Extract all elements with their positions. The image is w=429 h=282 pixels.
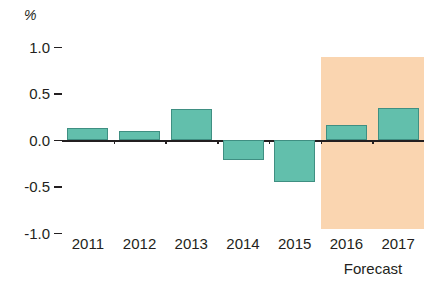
y-axis-tick-mark: [54, 140, 62, 142]
y-axis-tick-10: -1.0: [24, 225, 62, 241]
x-axis-tick-mark: [372, 140, 374, 144]
bar-2012: [119, 131, 160, 140]
bar-2017: [378, 108, 419, 140]
y-axis-tick-label: 0.5: [29, 86, 50, 101]
y-axis-tick-mark: [54, 186, 62, 188]
y-axis-tick-00: 0.0: [29, 132, 62, 148]
y-axis-tick-10: 1.0: [29, 39, 62, 55]
x-axis-tick-mark: [217, 140, 219, 144]
y-axis-tick-label: 0.0: [29, 133, 50, 148]
y-axis-tick-label: 1.0: [29, 40, 50, 55]
x-axis-label-2016: 2016: [321, 236, 373, 251]
x-axis-label-2015: 2015: [269, 236, 321, 251]
bar-2013: [171, 109, 212, 140]
bar-2014: [223, 140, 264, 160]
x-axis-tick-mark: [165, 140, 167, 144]
bar-2016: [326, 125, 367, 140]
y-axis-tick-mark: [54, 47, 62, 49]
x-axis-label-2013: 2013: [165, 236, 217, 251]
x-axis-tick-mark: [114, 140, 116, 144]
y-axis-tick-label: -1.0: [24, 226, 50, 241]
bar-2015: [274, 140, 315, 182]
bar-2011: [67, 128, 108, 140]
y-axis-tick-mark: [54, 93, 62, 95]
x-axis-label-2011: 2011: [62, 236, 114, 251]
y-axis-tick-05: -0.5: [24, 179, 62, 195]
x-axis-tick-mark: [269, 140, 271, 144]
x-axis-tick-mark: [321, 140, 323, 144]
x-axis-label-2014: 2014: [217, 236, 269, 251]
bar-chart: % 1.00.50.0-0.5-1.0 20112012201320142015…: [0, 0, 429, 282]
x-axis-label-2012: 2012: [114, 236, 166, 251]
forecast-caption: Forecast: [321, 261, 425, 276]
y-axis-tick-mark: [54, 233, 62, 235]
plot-area: 1.00.50.0-0.5-1.0 2011201220132014201520…: [0, 0, 429, 282]
y-axis: 1.00.50.0-0.5-1.0: [0, 0, 62, 282]
y-axis-tick-label: -0.5: [24, 179, 50, 194]
y-axis-tick-05: 0.5: [29, 86, 62, 102]
x-axis-label-2017: 2017: [372, 236, 424, 251]
